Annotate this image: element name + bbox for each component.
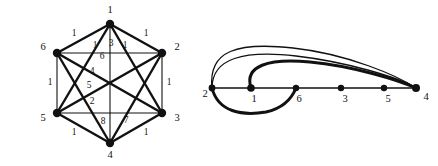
arc-above-inner-2-4 bbox=[212, 54, 416, 88]
graph-figure: 1 2 3 4 5 6 1 1 1 1 1 1 1 1 3 6 4 5 2 bbox=[0, 0, 438, 166]
edge-label-4-2: 7 bbox=[124, 115, 129, 125]
node-5 bbox=[381, 85, 387, 91]
edge-label-6-2: 6 bbox=[100, 51, 105, 61]
vertex-label-1: 1 bbox=[107, 4, 112, 15]
left-graph-panel: 1 2 3 4 5 6 1 1 1 1 1 1 1 1 3 6 4 5 2 bbox=[0, 0, 200, 166]
edge-label-4-5: 1 bbox=[72, 127, 77, 137]
edge-label-6-4: 5 bbox=[87, 80, 92, 90]
vertex-label-4: 4 bbox=[423, 91, 429, 102]
node-5 bbox=[53, 109, 61, 117]
node-6 bbox=[293, 85, 299, 91]
right-graph-vertex-labels: 2 1 6 3 5 4 bbox=[202, 88, 429, 104]
edge-label-5-6: 1 bbox=[48, 77, 53, 87]
linear-embedding-svg: 2 1 6 3 5 4 bbox=[198, 0, 438, 166]
node-4 bbox=[106, 139, 114, 147]
edge-label-1-4: 3 bbox=[109, 38, 114, 48]
complete-graph-svg: 1 2 3 4 5 6 1 1 1 1 1 1 1 1 3 6 4 5 2 bbox=[0, 0, 200, 166]
edge-label-6-1: 1 bbox=[72, 28, 77, 38]
vertex-label-6: 6 bbox=[296, 93, 301, 104]
edge-label-1-3: 1 bbox=[123, 40, 128, 50]
node-3 bbox=[338, 85, 344, 91]
vertex-label-5: 5 bbox=[40, 112, 45, 123]
node-3 bbox=[158, 109, 166, 117]
edge-label-6-3: 4 bbox=[90, 66, 95, 76]
vertex-label-4: 4 bbox=[107, 149, 113, 160]
vertex-label-2: 2 bbox=[202, 88, 207, 99]
edge-label-5-2: 8 bbox=[101, 116, 106, 126]
right-graph-panel: 2 1 6 3 5 4 bbox=[198, 0, 438, 166]
edge-label-2-3: 1 bbox=[167, 77, 172, 87]
node-4 bbox=[412, 84, 420, 92]
node-6 bbox=[53, 49, 61, 57]
vertex-label-5: 5 bbox=[385, 93, 390, 104]
node-2 bbox=[209, 85, 216, 92]
edge-label-5-3: 2 bbox=[90, 96, 95, 106]
vertex-label-2: 2 bbox=[174, 41, 179, 52]
edge-label-1-5: 1 bbox=[93, 40, 98, 50]
vertex-label-1: 1 bbox=[251, 93, 256, 104]
node-1 bbox=[247, 84, 255, 92]
node-1 bbox=[106, 20, 114, 28]
vertex-label-3: 3 bbox=[342, 93, 347, 104]
node-2 bbox=[158, 49, 166, 57]
edge-label-3-4: 1 bbox=[144, 127, 149, 137]
vertex-label-6: 6 bbox=[40, 41, 45, 52]
edge-label-1-2: 1 bbox=[144, 28, 149, 38]
vertex-label-3: 3 bbox=[174, 112, 179, 123]
arc-above-outer-2-4 bbox=[212, 46, 416, 88]
